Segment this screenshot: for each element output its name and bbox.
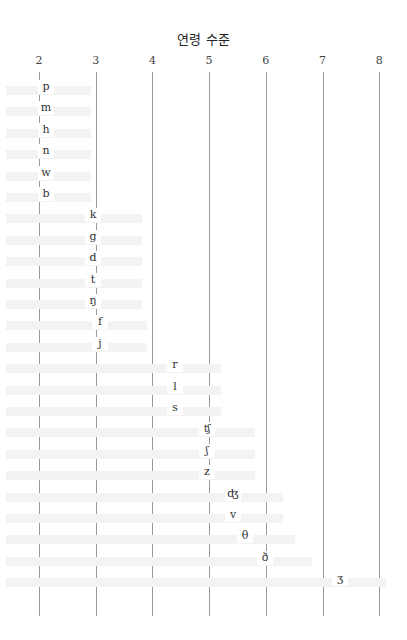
- chart-title: 연령 수준: [0, 29, 407, 48]
- sound-label: ŋ: [85, 294, 101, 308]
- row-band: [6, 407, 221, 416]
- row-band: [6, 214, 142, 223]
- sound-label: ʒ: [332, 572, 348, 586]
- age-tick-3: 3: [86, 54, 106, 67]
- sound-label: ʤ: [225, 487, 241, 501]
- gridline-5: [209, 72, 210, 616]
- gridline-7: [323, 72, 324, 616]
- sound-label: h: [38, 123, 54, 137]
- sound-label: z: [199, 465, 215, 479]
- row-band: [6, 386, 221, 395]
- sound-label: θ: [237, 529, 253, 543]
- row-band: [6, 471, 255, 480]
- sound-label: ð: [257, 551, 273, 565]
- age-tick-7: 7: [313, 54, 333, 67]
- sound-label: ʧ: [199, 422, 215, 436]
- sound-label: v: [225, 508, 241, 522]
- row-band: [6, 364, 221, 373]
- gridline-8: [379, 72, 380, 616]
- sound-label: l: [167, 380, 183, 394]
- row-band: [6, 321, 147, 330]
- row-band: [6, 428, 255, 437]
- age-tick-2: 2: [29, 54, 49, 67]
- sound-label: t: [85, 273, 101, 287]
- sound-label: w: [38, 166, 54, 180]
- sound-label: n: [38, 144, 54, 158]
- row-band: [6, 578, 386, 587]
- row-band: [6, 450, 255, 459]
- sound-label: g: [85, 230, 101, 244]
- gridline-4: [152, 72, 153, 616]
- age-tick-5: 5: [199, 54, 219, 67]
- sound-label: f: [92, 315, 108, 329]
- sound-label: k: [85, 208, 101, 222]
- age-tick-8: 8: [369, 54, 389, 67]
- sound-label: b: [38, 187, 54, 201]
- age-tick-6: 6: [256, 54, 276, 67]
- row-band: [6, 236, 142, 245]
- row-band: [6, 300, 142, 309]
- gridline-6: [266, 72, 267, 616]
- row-band: [6, 343, 147, 352]
- row-band: [6, 493, 283, 502]
- sound-label: ʃ: [199, 444, 215, 458]
- row-band: [6, 257, 142, 266]
- age-tick-4: 4: [142, 54, 162, 67]
- sound-label: p: [38, 80, 54, 94]
- sound-label: d: [85, 251, 101, 265]
- row-band: [6, 514, 283, 523]
- row-band: [6, 279, 142, 288]
- sound-label: m: [38, 101, 54, 115]
- sound-label: j: [92, 337, 108, 351]
- sound-label: s: [167, 401, 183, 415]
- sound-label: r: [167, 358, 183, 372]
